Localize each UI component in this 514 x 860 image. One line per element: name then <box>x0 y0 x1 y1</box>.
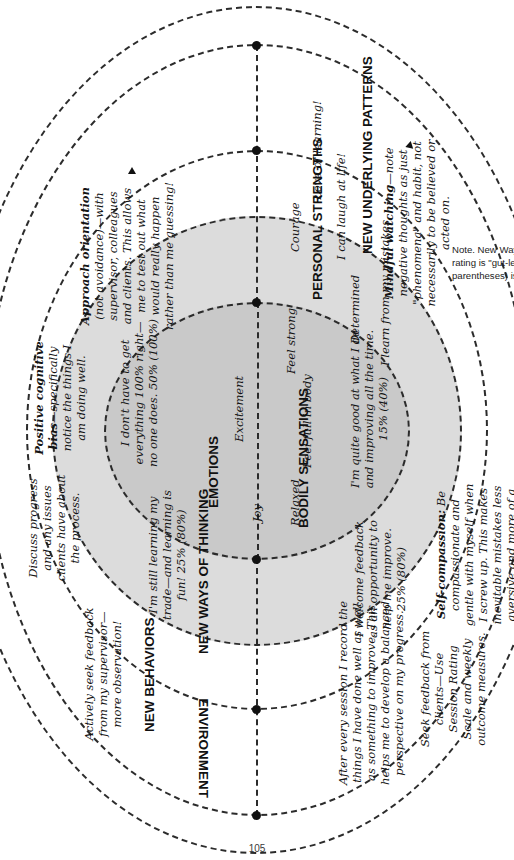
belief-rating: 15% (40%) <box>376 377 390 441</box>
axis-dot-mid-right <box>252 146 261 155</box>
pointer-arrow-icon <box>405 140 414 149</box>
environment-item: Seek feedback from clients—Use Session R… <box>418 630 488 748</box>
figure-note: Note. New Ways of Thinking belief rating… <box>452 244 514 283</box>
axis-line-right <box>256 45 258 303</box>
emotion-item: Excitement <box>232 376 246 442</box>
formulation-diagram: ENVIRONMENT NEW BEHAVIORS NEW WAYS OF TH… <box>0 0 514 860</box>
belief-rating: 25% (80%) <box>174 509 188 573</box>
belief-statement: I'm still learning my trade—and learning… <box>146 486 188 624</box>
underlying-pattern-item: Positive cognitive bias—specifically not… <box>32 340 88 456</box>
page-number: 105 <box>0 843 514 854</box>
belief-text: I'm quite good at what I do and improvin… <box>348 330 376 488</box>
heading-new-underlying-patterns: NEW UNDERLYING PATTERNS <box>360 56 375 254</box>
new-behavior-item: Actively seek feedback from my superviso… <box>82 606 124 742</box>
personal-strength-item: I can laugh at life! <box>334 153 348 260</box>
personal-strength-item: Determined <box>348 275 362 344</box>
pattern-lead: Self-compassion: <box>434 510 448 619</box>
underlying-pattern-item: Mindful watching—note negative thoughts … <box>382 134 452 312</box>
bodily-sensation-item: Feel strong <box>284 308 298 374</box>
bodily-sensation-item: Relaxed <box>288 479 302 526</box>
heading-new-ways-of-thinking: NEW WAYS OF THINKING <box>196 489 211 654</box>
personal-strength-item: I learn from my mistakes <box>378 220 392 366</box>
pointer-arrow-icon <box>128 167 136 174</box>
axis-line-left <box>256 558 258 816</box>
new-behavior-item: Discuss progress and any issues clients … <box>26 466 82 590</box>
axis-dot-outer-right <box>252 41 261 50</box>
heading-emotions: EMOTIONS <box>206 436 221 508</box>
personal-strength-item: Love of learning! <box>310 100 324 200</box>
pattern-lead: Approach orientation <box>78 187 92 325</box>
personal-strength-item: Courage <box>288 202 302 252</box>
axis-dot-core-right <box>252 298 261 307</box>
pattern-text: (not avoidance)—with supervisor, colleag… <box>92 182 176 330</box>
emotion-item: Joy <box>250 504 264 522</box>
underlying-pattern-item: Self-compassion: Be compassionate and ge… <box>434 480 514 630</box>
underlying-pattern-item: Approach orientation (not avoidance)—wit… <box>78 180 176 332</box>
axis-dot-outer-left <box>252 811 261 820</box>
heading-environment: ENVIRONMENT <box>196 698 211 798</box>
axis-dot-core-left <box>252 555 261 564</box>
bodily-sensation-item: Feel full in body <box>300 374 314 468</box>
axis-dot-mid-left <box>252 705 261 714</box>
belief-statement: I don't have to get everything 100% righ… <box>118 318 160 468</box>
heading-new-behaviors: NEW BEHAVIORS <box>142 617 157 732</box>
new-behavior-item: After every session I record the things … <box>336 598 406 788</box>
